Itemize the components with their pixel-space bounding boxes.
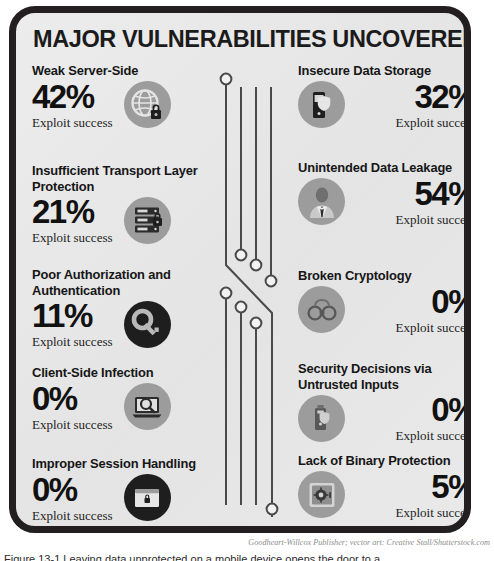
vulnerability-sublabel: Exploit success bbox=[356, 212, 471, 227]
usb-drive-shield-icon bbox=[298, 395, 345, 442]
server-rack-lock-icon bbox=[124, 197, 171, 244]
vulnerability-item-client-side-infection: Client-Side Infection 0% Exploit success bbox=[32, 365, 214, 432]
vulnerability-sublabel: Exploit success bbox=[356, 115, 471, 130]
vulnerability-label: Unintended Data Leakage bbox=[298, 160, 471, 176]
vulnerability-item-security-decisions-via-untrusted-inputs: Security Decisions via Untrusted Inputs … bbox=[298, 361, 471, 443]
browser-window-lock-icon bbox=[124, 474, 171, 521]
vulnerability-item-broken-cryptology: Broken Cryptology 0% Exploit success bbox=[298, 268, 471, 335]
vulnerability-item-lack-of-binary-protection: Lack of Binary Protection bbox=[298, 453, 471, 520]
vulnerability-percent: 0% bbox=[356, 393, 471, 427]
vulnerability-percent: 21% bbox=[32, 195, 113, 229]
vulnerability-label: Poor Authorization and Authentication bbox=[32, 267, 214, 298]
vulnerability-percent: 0% bbox=[356, 285, 471, 319]
figure-caption-partial: Figure 13-1 Leaving data unprotected on … bbox=[4, 553, 434, 561]
vulnerability-percent: 54% bbox=[356, 177, 471, 211]
vulnerability-label: Security Decisions via Untrusted Inputs bbox=[298, 361, 471, 392]
vulnerability-label: Broken Cryptology bbox=[298, 268, 471, 284]
vulnerability-sublabel: Exploit success bbox=[32, 508, 113, 523]
vulnerability-item-insecure-data-storage: Insecure Data Storage 32% Exploit succes… bbox=[298, 63, 471, 130]
vulnerability-percent: 42% bbox=[32, 80, 113, 114]
page-title: MAJOR VULNERABILITIES UNCOVERED bbox=[33, 26, 453, 53]
vulnerability-percent: 0% bbox=[32, 473, 113, 507]
safe-vault-icon bbox=[298, 471, 345, 518]
infographic-panel: MAJOR VULNERABILITIES UNCOVERED Weak Ser… bbox=[9, 6, 471, 533]
vulnerability-sublabel: Exploit success bbox=[356, 505, 471, 520]
anonymous-person-icon bbox=[298, 178, 345, 225]
vulnerability-sublabel: Exploit success bbox=[32, 334, 113, 349]
vulnerability-label: Improper Session Handling bbox=[32, 456, 214, 472]
vulnerability-sublabel: Exploit success bbox=[356, 320, 471, 335]
handcuffs-icon bbox=[298, 286, 345, 333]
image-credit: Goodheart-Willcox Publisher; vector art:… bbox=[248, 538, 490, 547]
laptop-magnifier-icon bbox=[124, 383, 171, 430]
vulnerability-item-weak-server-side: Weak Server-Side 42% Exploit success bbox=[32, 63, 214, 130]
vulnerability-label: Lack of Binary Protection bbox=[298, 453, 471, 469]
vulnerability-sublabel: Exploit success bbox=[32, 230, 113, 245]
vulnerability-percent: 32% bbox=[356, 80, 471, 114]
vulnerability-label: Client-Side Infection bbox=[32, 365, 214, 381]
vulnerability-item-insufficient-transport-layer-protection: Insufficient Transport Layer Protection … bbox=[32, 163, 214, 245]
vulnerability-sublabel: Exploit success bbox=[356, 428, 471, 443]
key-icon bbox=[124, 301, 171, 348]
vulnerability-sublabel: Exploit success bbox=[32, 115, 113, 130]
vulnerability-item-improper-session-handling: Improper Session Handling 0% Exploit suc… bbox=[32, 456, 214, 523]
infographic-figure: MAJOR VULNERABILITIES UNCOVERED Weak Ser… bbox=[0, 0, 494, 561]
vulnerability-percent: 11% bbox=[32, 299, 113, 333]
vulnerability-percent: 0% bbox=[32, 382, 113, 416]
vulnerability-item-poor-authorization-and-authentication: Poor Authorization and Authentication 11… bbox=[32, 267, 214, 349]
vulnerability-label: Insecure Data Storage bbox=[298, 63, 471, 79]
vulnerability-percent: 5% bbox=[356, 470, 471, 504]
circuit-trace-graphic bbox=[212, 65, 304, 517]
vulnerability-sublabel: Exploit success bbox=[32, 417, 113, 432]
phone-shield-icon bbox=[298, 81, 345, 128]
vulnerability-label: Weak Server-Side bbox=[32, 63, 214, 79]
vulnerability-item-unintended-data-leakage: Unintended Data Leakage 54% Explo bbox=[298, 160, 471, 227]
globe-lock-icon bbox=[124, 81, 171, 128]
vulnerability-label: Insufficient Transport Layer Protection bbox=[32, 163, 214, 194]
